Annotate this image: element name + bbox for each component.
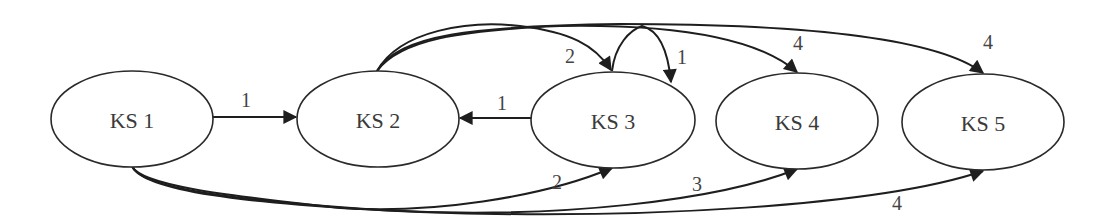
node-ks2: KS 2 [297,71,459,167]
edge-label: 4 [983,31,993,53]
node-label: KS 5 [961,111,1006,136]
node-ks5: KS 5 [902,74,1064,170]
node-label: KS 2 [356,108,401,133]
edge-label: 4 [892,192,902,214]
node-ks3: KS 3 [531,72,695,168]
node-label: KS 1 [110,108,155,133]
node-label: KS 3 [591,109,636,134]
edge-ks1-to-ks2: 1 [213,89,296,117]
edge-label: 1 [677,46,687,68]
edge-ks1-to-ks3: 2 [132,166,612,209]
edge-label: 2 [565,45,575,67]
edge-label: 2 [552,171,562,193]
edge-label: 1 [241,89,251,111]
edge-label: 4 [793,32,803,54]
edge-label: 3 [692,173,702,195]
knowledge-state-graph: 1 1 2 1 4 4 2 3 4 KS 1 [0,0,1118,221]
node-ks4: KS 4 [716,73,878,169]
edge-ks3-to-ks2: 1 [460,92,531,118]
node-ks1: KS 1 [51,71,213,167]
edge-line [377,26,797,72]
node-label: KS 4 [775,110,820,135]
edge-line [132,166,612,209]
edge-ks1-to-ks4: 3 [132,166,797,213]
edge-label: 1 [497,92,507,114]
